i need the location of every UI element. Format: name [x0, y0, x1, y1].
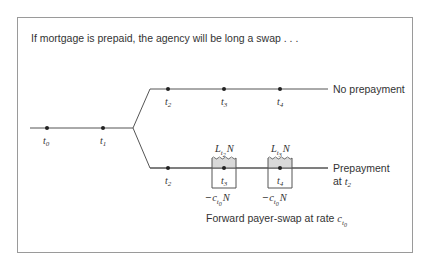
diagram-canvas: If mortgage is prepaid, the agency will … [0, 0, 435, 267]
node-dot-upper-t2 [166, 87, 170, 91]
upper-branch-label: No prepayment [333, 83, 405, 95]
node-dot-lower-t3 [222, 166, 226, 170]
node-dot-t0 [45, 126, 49, 130]
node-dot-upper-t3 [222, 87, 226, 91]
node-dot-lower-t4 [278, 166, 282, 170]
node-dot-t1 [101, 126, 105, 130]
diagram-title: If mortgage is prepaid, the agency will … [31, 32, 298, 44]
node-dot-lower-t2 [166, 166, 170, 170]
lower-branch-label-line1: Prepayment [333, 162, 390, 174]
node-dot-upper-t4 [278, 87, 282, 91]
